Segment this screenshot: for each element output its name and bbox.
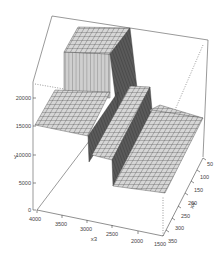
z-axis — [33, 98, 36, 210]
x-tick-2500: 2500 — [106, 231, 118, 237]
x-tick-4000: 4000 — [29, 216, 41, 222]
y-tick-300: 300 — [175, 225, 184, 231]
y-tick-50: 50 — [207, 161, 213, 167]
y-tick-100: 100 — [200, 174, 209, 180]
z-tick-0: 0 — [28, 207, 31, 213]
surface-plot-3d: 20000 15000 10000 5000 0 y 4000 3500 300… — [0, 0, 223, 262]
x-tick-1500: 1500 — [154, 241, 166, 247]
z-tick-5000: 5000 — [19, 180, 31, 186]
z-tick-10000: 10000 — [16, 152, 31, 158]
x-tick-3000: 3000 — [80, 226, 92, 232]
surface — [35, 27, 203, 193]
y-tick-250: 250 — [181, 213, 190, 219]
y-tick-150: 150 — [194, 187, 203, 193]
y-tick-350: 350 — [168, 238, 177, 244]
z-tick-15000: 15000 — [16, 123, 31, 129]
z-tick-20000: 20000 — [16, 95, 31, 101]
x-axis-title: x3 — [91, 236, 98, 242]
z-axis-title: y — [14, 153, 17, 159]
x-tick-3500: 3500 — [55, 221, 67, 227]
x-tick-2000: 2000 — [131, 238, 143, 244]
